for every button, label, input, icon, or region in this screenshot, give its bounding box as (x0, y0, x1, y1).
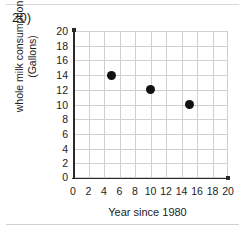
y-axis-title-line2: (Gallons) (25, 0, 38, 132)
x-axis-line (72, 178, 230, 180)
x-tick-label: 20 (217, 185, 239, 197)
y-tick-label: 18 (38, 40, 68, 52)
y-tick-label: 16 (38, 54, 68, 66)
data-point (107, 71, 116, 80)
y-tick-label: 10 (38, 99, 68, 111)
y-axis-line (73, 29, 75, 179)
y-axis-end-marker (72, 28, 76, 32)
y-axis-title-line1: whole milk consumption (13, 1, 25, 112)
x-axis-end-marker (226, 176, 230, 180)
y-tick-label: 2 (38, 157, 68, 169)
data-point (146, 85, 155, 94)
worksheet-page: 20) whole milk consumption (Gallons) (0, 0, 245, 230)
y-tick-label: 6 (38, 128, 68, 140)
data-point (185, 100, 194, 109)
y-tick-label: 12 (38, 84, 68, 96)
y-tick-label: 14 (38, 69, 68, 81)
x-axis-title: Year since 1980 (60, 206, 235, 218)
y-axis-title: whole milk consumption (Gallons) (13, 0, 38, 132)
y-tick-label: 8 (38, 113, 68, 125)
plot-area (73, 31, 228, 178)
y-tick-label: 0 (38, 171, 68, 183)
scatter-chart: whole milk consumption (Gallons) (0, 0, 245, 230)
y-tick-label: 4 (38, 143, 68, 155)
y-tick-label: 20 (38, 25, 68, 37)
